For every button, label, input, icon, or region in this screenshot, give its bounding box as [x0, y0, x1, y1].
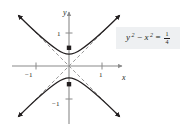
equation-lhs-var2: x	[145, 33, 149, 42]
plot-canvas	[0, 0, 185, 135]
equation-lhs-var1: y	[126, 33, 130, 42]
equation-lhs-exp1: 2	[131, 32, 134, 38]
lower-branch-arrow-right	[116, 113, 120, 117]
equation-text: y2 − x2 = 1 4	[126, 31, 170, 45]
equation-lhs-exp2: 2	[150, 32, 153, 38]
y-tick-label-neg1: −1	[52, 101, 59, 108]
hyperbola-figure: y x −1 1 1 −1 y2 − x2 = 1 4	[0, 0, 185, 135]
y-tick-label-pos1: 1	[57, 31, 61, 38]
y-axis-label: y	[63, 9, 67, 17]
equation-label-box: y2 − x2 = 1 4	[116, 27, 180, 49]
x-tick-label-neg1: −1	[25, 72, 32, 79]
equation-operator: −	[137, 33, 142, 42]
upper-vertex-point	[67, 46, 71, 50]
equation-fraction: 1 4	[164, 31, 170, 45]
upper-branch-arrow-left	[19, 16, 23, 20]
fraction-denominator: 4	[165, 38, 170, 45]
x-axis-label: x	[122, 74, 126, 82]
lower-branch-arrow-left	[19, 113, 23, 117]
upper-branch-arrow-right	[116, 16, 120, 20]
x-tick-label-pos1: 1	[99, 72, 103, 79]
lower-vertex-point	[67, 82, 71, 86]
equation-equals-sign: =	[156, 33, 161, 42]
